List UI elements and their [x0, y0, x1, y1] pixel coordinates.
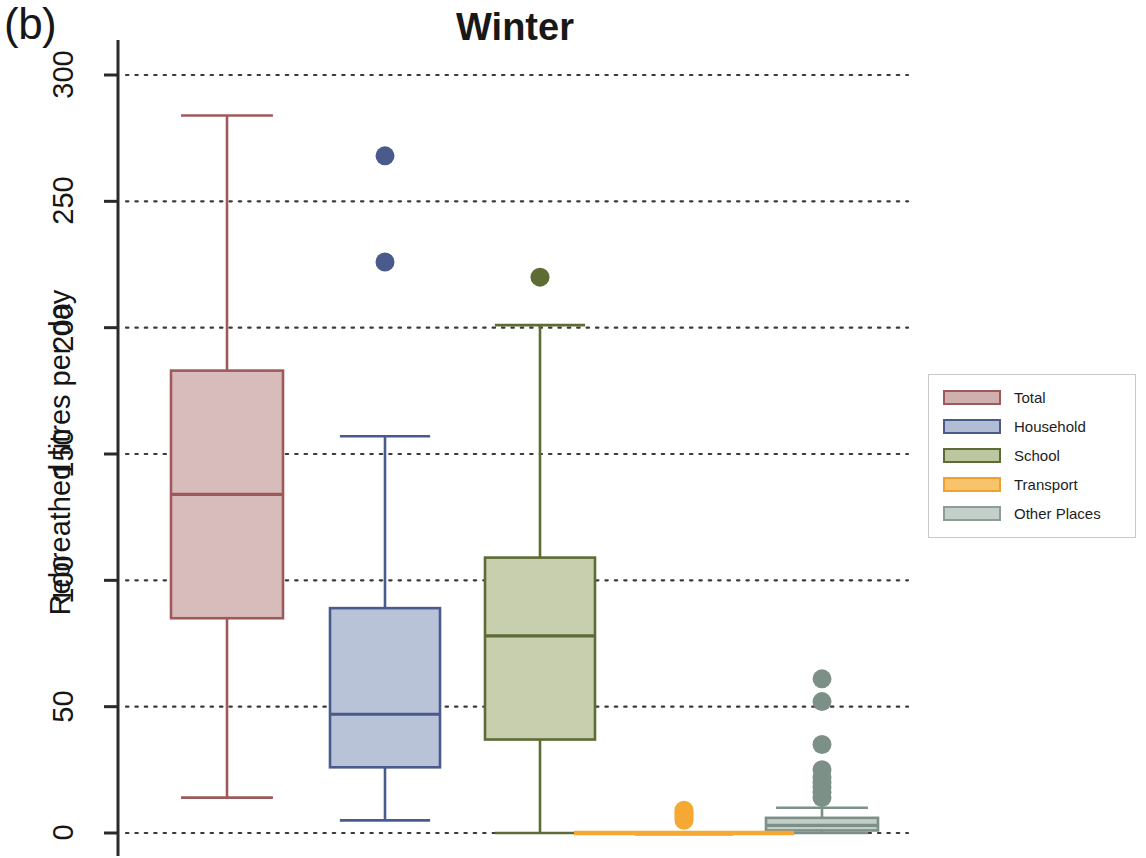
outlier-point: [376, 252, 395, 271]
y-tick-label: 100: [28, 563, 98, 596]
panel-label: (b): [4, 2, 56, 46]
y-tick-label-text: 250: [46, 177, 79, 225]
legend-label: Total: [1014, 389, 1046, 406]
legend-item-household[interactable]: Household: [929, 412, 1135, 441]
y-tick-label: 250: [28, 184, 98, 217]
outlier-point: [813, 692, 832, 711]
chart-title: Winter: [120, 6, 910, 49]
legend-swatch-icon: [943, 448, 1001, 463]
y-tick-label-text: 200: [46, 303, 79, 351]
y-tick-label-text: 100: [46, 556, 79, 604]
legend-item-total[interactable]: Total: [929, 383, 1135, 412]
legend-item-transport[interactable]: Transport: [929, 470, 1135, 499]
boxplot-other-places: [766, 669, 878, 833]
legend-item-school[interactable]: School: [929, 441, 1135, 470]
outlier-point: [531, 268, 550, 287]
outlier-point: [813, 788, 832, 807]
outlier-point: [376, 146, 395, 165]
y-tick-label: 50: [28, 690, 98, 723]
legend-swatch-icon: [943, 390, 1001, 405]
outlier-point: [675, 811, 694, 830]
y-tick-label-text: 150: [46, 429, 79, 477]
legend-label: Other Places: [1014, 505, 1101, 522]
y-tick-label: 150: [28, 437, 98, 470]
y-tick-label: 300: [28, 58, 98, 91]
outlier-point: [813, 669, 832, 688]
legend-swatch-icon: [943, 419, 1001, 434]
legend-item-other-places[interactable]: Other Places: [929, 499, 1135, 528]
y-tick-label-text: 50: [46, 690, 79, 722]
figure-panel: (b) Winter Rebreathed litres per day 050…: [0, 0, 1146, 858]
y-tick-label: 200: [28, 311, 98, 344]
legend-label: Transport: [1014, 476, 1078, 493]
legend-swatch-icon: [943, 477, 1001, 492]
chart-legend: TotalHouseholdSchoolTransportOther Place…: [928, 374, 1136, 538]
legend-label: Household: [1014, 418, 1086, 435]
boxplot-household: [330, 146, 440, 820]
boxplot-school: [485, 268, 595, 833]
y-tick-label: 0: [28, 816, 98, 849]
legend-label: School: [1014, 447, 1060, 464]
boxplot-total: [171, 115, 283, 797]
outlier-point: [813, 735, 832, 754]
y-tick-label-text: 300: [46, 50, 79, 98]
boxplot-transport: [636, 801, 732, 835]
y-tick-label-text: 0: [46, 824, 79, 840]
legend-swatch-icon: [943, 506, 1001, 521]
